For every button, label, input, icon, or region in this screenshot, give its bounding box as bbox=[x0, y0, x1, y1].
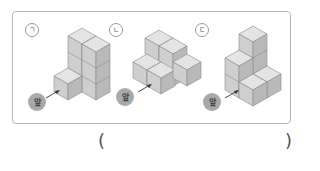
front-view-badge-ga: 앞 bbox=[28, 93, 46, 111]
front-view-badge-da: 앞 bbox=[203, 93, 221, 111]
figure-label-da: ㄷ bbox=[195, 23, 209, 37]
cube-structure-ga bbox=[52, 26, 112, 101]
front-label: 앞 bbox=[209, 98, 216, 107]
arrow-icon bbox=[45, 89, 61, 99]
front-label: 앞 bbox=[122, 93, 129, 102]
front-view-badge-na: 앞 bbox=[116, 88, 134, 106]
answer-open-paren: ( bbox=[98, 130, 105, 151]
answer-input[interactable] bbox=[110, 132, 282, 152]
answer-close-paren: ) bbox=[285, 130, 292, 151]
arrow-icon bbox=[224, 89, 240, 99]
front-label: 앞 bbox=[34, 98, 41, 107]
figure-label-ga: ㄱ bbox=[25, 23, 39, 37]
figure-label-na: ㄴ bbox=[109, 23, 123, 37]
arrow-icon bbox=[137, 83, 153, 93]
